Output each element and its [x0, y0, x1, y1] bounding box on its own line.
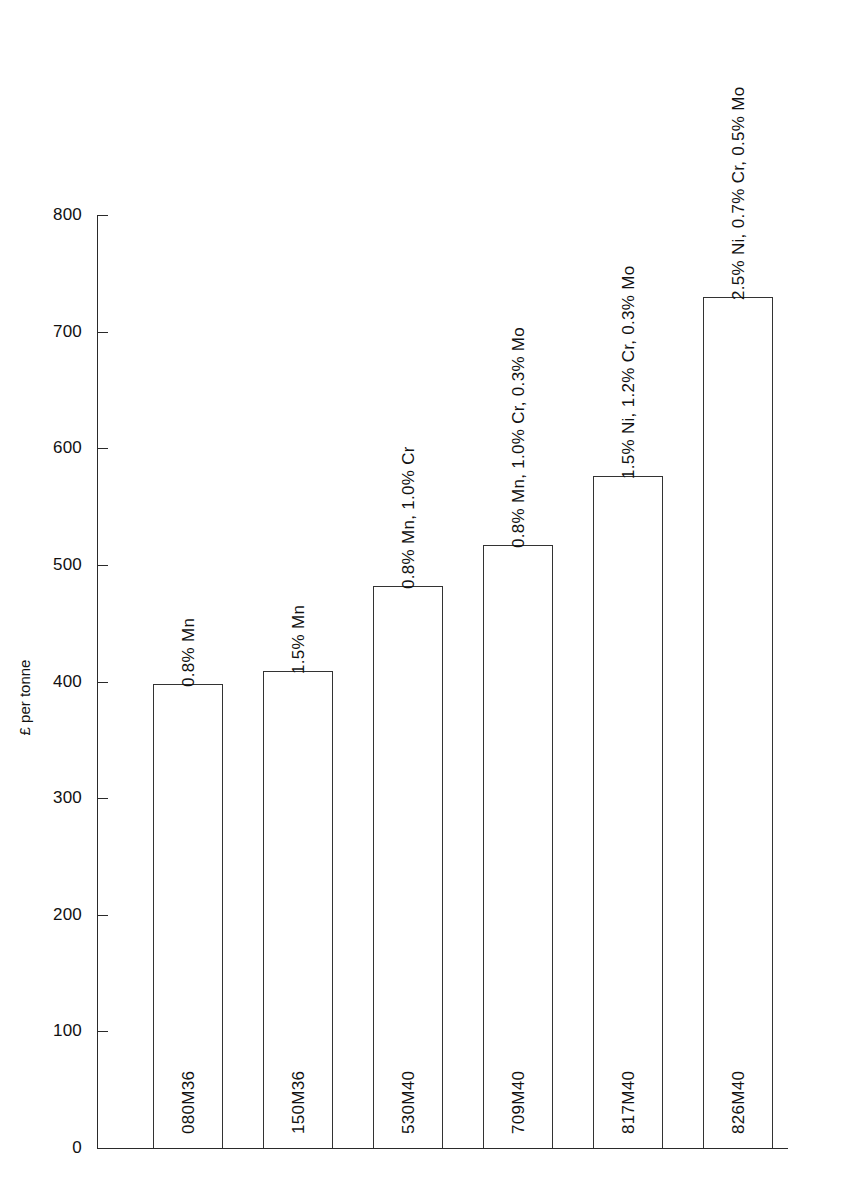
bar-grade-label: 080M36 [180, 1071, 197, 1134]
y-tick-mark [97, 448, 108, 449]
bar-chart: 8007006005004003002001000 £ per tonne 08… [0, 0, 841, 1178]
x-axis-line [97, 1148, 788, 1149]
y-tick-mark [97, 565, 108, 566]
bar-composition-label: 2.5% Ni, 0.7% Cr, 0.5% Mo [730, 86, 747, 299]
y-tick-label: 100 [30, 1022, 82, 1039]
bar[interactable]: 817M40 [593, 476, 663, 1148]
y-tick-label: 200 [30, 906, 82, 923]
bar-grade-label: 817M40 [620, 1071, 637, 1134]
bar-grade-label: 826M40 [730, 1071, 747, 1134]
y-tick-label: 400 [30, 673, 82, 690]
bar[interactable]: 826M40 [703, 297, 773, 1148]
y-tick-mark [97, 215, 108, 216]
y-axis-title: £ per tonne [17, 638, 32, 758]
bar-composition-label: 1.5% Ni, 1.2% Cr, 0.3% Mo [620, 266, 637, 479]
bar-composition-label: 0.8% Mn, 1.0% Cr, 0.3% Mo [510, 327, 527, 548]
bar-composition-label: 0.8% Mn, 1.0% Cr [400, 446, 417, 589]
y-tick-mark [97, 332, 108, 333]
bar-grade-label: 530M40 [400, 1071, 417, 1134]
y-tick-mark [97, 915, 108, 916]
bar[interactable]: 709M40 [483, 545, 553, 1148]
y-tick-label: 0 [30, 1139, 82, 1156]
bar[interactable]: 150M36 [263, 671, 333, 1148]
bar-composition-label: 0.8% Mn [180, 618, 197, 687]
bar-grade-label: 150M36 [290, 1071, 307, 1134]
y-tick-mark [97, 798, 108, 799]
bar-grade-label: 709M40 [510, 1071, 527, 1134]
bar[interactable]: 530M40 [373, 586, 443, 1148]
y-tick-label: 800 [30, 206, 82, 223]
bar-composition-label: 1.5% Mn [290, 605, 307, 674]
y-tick-label: 600 [30, 439, 82, 456]
y-tick-mark [97, 1031, 108, 1032]
y-tick-label: 300 [30, 789, 82, 806]
y-tick-mark [97, 682, 108, 683]
y-tick-label: 500 [30, 556, 82, 573]
y-tick-label: 700 [30, 323, 82, 340]
bar[interactable]: 080M36 [153, 684, 223, 1148]
